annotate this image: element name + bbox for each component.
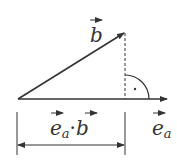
label-ea: ea xyxy=(152,113,172,141)
label-projection: ea·b xyxy=(50,113,97,141)
svg-text:ea: ea xyxy=(152,116,172,141)
label-b: b xyxy=(90,20,103,47)
right-angle-arc xyxy=(125,75,149,99)
svg-text:ea·b: ea·b xyxy=(50,116,89,141)
diagram-canvas: b ea·b ea xyxy=(0,0,177,162)
projection-diagram: b ea·b ea xyxy=(0,0,177,162)
right-angle-dot xyxy=(134,88,136,90)
vector-b-arrow xyxy=(18,33,124,99)
svg-text:b: b xyxy=(90,23,103,47)
